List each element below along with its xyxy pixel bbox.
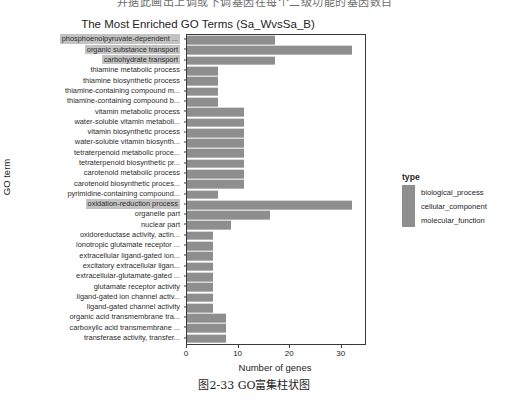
y-axis-label-text: water-soluble vitamin metaboli...	[74, 118, 180, 125]
y-axis-label-text: extracellular-glutamate-gated ...	[76, 272, 180, 279]
y-axis-label: carbohydrate transport	[0, 55, 184, 65]
y-axis-label: extracellular-glutamate-gated ...	[0, 271, 184, 281]
bar	[187, 149, 244, 158]
y-axis-label-text: organelle part	[135, 210, 180, 217]
y-axis-label: excitatory extracellular ligan...	[0, 261, 184, 271]
y-axis-label-text: water-soluble vitamin biosynth...	[75, 138, 180, 145]
legend-item: cellular_component	[402, 199, 506, 213]
bar-row	[187, 303, 365, 313]
bar	[187, 190, 218, 199]
y-axis-label: glutamate receptor activity	[0, 281, 184, 291]
bar	[187, 283, 213, 292]
x-axis-tick-label: 10	[233, 349, 242, 358]
y-axis-label-text: pyrimidine-containing compound...	[67, 190, 180, 197]
bar	[187, 273, 213, 282]
bar	[187, 118, 244, 127]
bar	[187, 201, 352, 210]
bar	[187, 211, 270, 220]
bar-row	[187, 231, 365, 241]
y-axis-label-text: thiamine metabolic process	[90, 66, 180, 73]
bar	[187, 293, 213, 302]
go-enrichment-figure: The Most Enriched GO Terms (Sa_WvsSa_B) …	[0, 12, 509, 370]
y-axis-label: water-soluble vitamin biosynth...	[0, 137, 184, 147]
bar-row	[187, 220, 365, 230]
bar	[187, 77, 218, 86]
bar-row	[187, 251, 365, 261]
x-axis-tick	[238, 344, 239, 348]
bar-row	[187, 128, 365, 138]
bar	[187, 128, 244, 137]
bar	[187, 98, 218, 107]
bar	[187, 87, 218, 96]
bar-row	[187, 323, 365, 333]
bar-row	[187, 179, 365, 189]
legend-items: biological_processcellular_componentmole…	[402, 185, 506, 227]
legend-swatch	[402, 185, 415, 199]
bar	[187, 46, 352, 55]
bar-row	[187, 334, 365, 344]
bar	[187, 221, 231, 230]
y-axis-label-text: glutamate receptor activity	[94, 283, 180, 290]
y-axis-label-text: vitamin metabolic process	[95, 108, 180, 115]
x-axis-ticks: 0102030	[186, 344, 364, 360]
bar	[187, 324, 226, 333]
x-axis-tick	[289, 344, 290, 348]
legend-item: molecular_function	[402, 213, 506, 227]
x-axis-tick	[341, 344, 342, 348]
bar-row	[187, 210, 365, 220]
bar	[187, 304, 213, 313]
bar-row	[187, 138, 365, 148]
y-axis-label-text: thiamine biosynthetic process	[83, 77, 180, 84]
bar	[187, 159, 244, 168]
y-axis-label-text: excitatory extracellular ligan...	[83, 262, 180, 269]
legend-swatch	[402, 199, 415, 213]
bar-row	[187, 200, 365, 210]
bar-row	[187, 262, 365, 272]
y-axis-label: water-soluble vitamin metaboli...	[0, 116, 184, 126]
scanned-header-text: 并据此画出上调或下调基因在每个二级功能的基因数目	[0, 0, 509, 9]
y-axis-label-text: tetraterpenoid metabolic proce...	[74, 149, 180, 156]
bar-row	[187, 189, 365, 199]
y-axis-label: thiamine-containing compound m...	[0, 85, 184, 95]
x-axis-tick-label: 30	[336, 349, 345, 358]
x-axis-title: Number of genes	[186, 362, 364, 373]
y-axis-label-text: ionotropic glutamate receptor ...	[76, 241, 180, 248]
scanned-page-header: 并据此画出上调或下调基因在每个二级功能的基因数目	[0, 0, 509, 11]
plot-area	[186, 34, 366, 345]
bar-row	[187, 313, 365, 323]
x-axis-tick	[186, 344, 187, 348]
y-axis-label-text: tetraterpenoid biosynthetic pr...	[79, 159, 180, 166]
y-axis-label-text: extracellular ligand-gated ion...	[79, 252, 180, 259]
bar	[187, 56, 275, 65]
bar-series	[187, 35, 365, 344]
y-axis-label: vitamin metabolic process	[0, 106, 184, 116]
chart-title: The Most Enriched GO Terms (Sa_WvsSa_B)	[0, 18, 396, 30]
legend: type biological_processcellular_componen…	[402, 172, 506, 227]
legend-label: biological_process	[421, 188, 483, 197]
bar-row	[187, 35, 365, 45]
bar-row	[187, 56, 365, 66]
y-axis-label: ligand-gated channel activity	[0, 302, 184, 312]
legend-label: cellular_component	[421, 202, 487, 211]
figure-caption: 图2-33 GO富集柱状图	[0, 376, 509, 392]
bar	[187, 334, 226, 343]
bar-row	[187, 241, 365, 251]
legend-item: biological_process	[402, 185, 506, 199]
legend-title: type	[402, 172, 506, 182]
bar-row	[187, 159, 365, 169]
bar-row	[187, 86, 365, 96]
bar	[187, 139, 244, 148]
y-axis-label: phosphoenolpyruvate-dependent ...	[0, 34, 184, 44]
y-axis-label-text: vitamin biosynthetic process	[88, 128, 180, 135]
y-axis-label: pyrimidine-containing compound...	[0, 188, 184, 198]
y-axis-label: thiamine metabolic process	[0, 65, 184, 75]
y-axis-label: oxidoreductase activity, actin...	[0, 230, 184, 240]
y-axis-label-text: ligand-gated ion channel activ...	[77, 293, 180, 300]
legend-swatch	[402, 213, 415, 227]
bar-row	[187, 76, 365, 86]
y-axis-label: ionotropic glutamate receptor ...	[0, 240, 184, 250]
y-axis-label: extracellular ligand-gated ion...	[0, 250, 184, 260]
y-axis-label-text: oxidation-reduction process	[86, 199, 180, 208]
y-axis-label-text: thiamine-containing compound m...	[65, 87, 180, 94]
y-axis-label: transferase activity, transfer...	[0, 333, 184, 343]
